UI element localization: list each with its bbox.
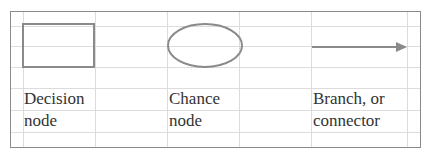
gridline	[407, 12, 408, 147]
decision-node-label: Decision node	[24, 88, 84, 132]
label-line: node	[24, 110, 84, 132]
label-line: Branch, or	[313, 88, 385, 110]
gridline	[311, 12, 312, 147]
chance-node-ellipse-icon	[166, 22, 244, 69]
label-line: Decision	[24, 88, 84, 110]
label-line: node	[169, 110, 220, 132]
gridline	[95, 12, 96, 147]
label-line: connector	[313, 110, 385, 132]
gridline	[11, 132, 420, 133]
decision-node-rectangle-icon	[22, 23, 95, 68]
branch-label: Branch, or connector	[313, 88, 385, 132]
branch-arrow-icon	[312, 40, 408, 54]
label-line: Chance	[169, 88, 220, 110]
chance-node-label: Chance node	[169, 88, 220, 132]
